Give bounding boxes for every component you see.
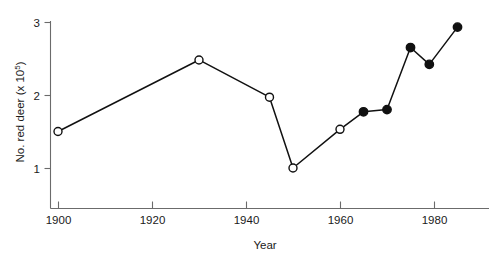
data-point-filled xyxy=(425,60,433,68)
y-axis-title-tail: ) xyxy=(14,61,26,65)
data-point-markers xyxy=(54,23,462,172)
x-axis-title: Year xyxy=(253,239,276,251)
x-tick-label: 1960 xyxy=(328,214,354,226)
y-axis-title-main: No. red deer (x 10 xyxy=(14,70,26,163)
data-point-open xyxy=(266,93,274,101)
data-point-open xyxy=(195,56,203,64)
data-point-filled xyxy=(383,105,391,113)
y-tick-label: 1 xyxy=(34,163,40,175)
x-tick-label: 1940 xyxy=(234,214,260,226)
y-axis-ticks xyxy=(45,23,51,169)
x-axis-tick-labels: 19001920194019601980 xyxy=(46,214,448,226)
data-series-line xyxy=(58,27,458,168)
x-tick-label: 1980 xyxy=(422,214,448,226)
y-axis-tick-labels: 123 xyxy=(34,17,40,175)
line-chart-canvas: 123 19001920194019601980 Year No. red de… xyxy=(0,0,494,260)
x-tick-label: 1900 xyxy=(46,214,72,226)
data-point-open xyxy=(336,125,344,133)
data-point-filled xyxy=(406,43,414,51)
y-axis-title: No. red deer (x 105) xyxy=(13,61,26,162)
chart-figure: 123 19001920194019601980 Year No. red de… xyxy=(0,0,494,260)
axes xyxy=(51,21,490,209)
data-point-filled xyxy=(359,108,367,116)
y-tick-label: 2 xyxy=(34,90,40,102)
y-tick-label: 3 xyxy=(34,17,40,29)
data-point-open xyxy=(54,128,62,136)
data-point-open xyxy=(289,164,297,172)
data-point-filled xyxy=(453,23,461,31)
x-axis-ticks xyxy=(59,202,435,209)
x-tick-label: 1920 xyxy=(140,214,166,226)
